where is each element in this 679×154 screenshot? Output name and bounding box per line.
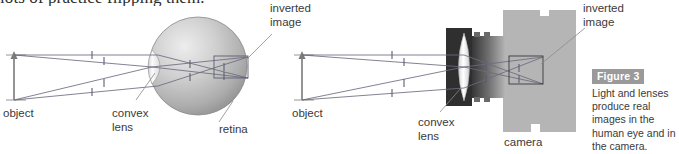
eye-object-label: object xyxy=(3,107,34,119)
camera-convex-lens-label-line2: lens xyxy=(418,130,439,142)
figure-3-illustration: lots of practice flipping them. xyxy=(0,0,679,154)
eye-inverted-image-leader xyxy=(246,34,272,60)
camera-object-label: object xyxy=(292,107,323,119)
eye-diagram-group: object convex lens retina inverted image xyxy=(3,2,311,135)
eye-inverted-image-label-line2: image xyxy=(270,16,301,28)
camera-convex-lens-label-line1: convex xyxy=(418,116,455,128)
eye-retina-label: retina xyxy=(219,123,248,135)
camera-inverted-image-label-line2: image xyxy=(583,16,614,28)
eye-convex-lens-label-line1: convex xyxy=(112,107,149,119)
figure-caption-block: Figure 3 Light and lenses produce real i… xyxy=(592,66,679,153)
camera-barrel-ring-top-2 xyxy=(484,32,490,37)
camera-barrel-ring-top xyxy=(474,32,480,37)
eye-convex-lens-label-line2: lens xyxy=(112,121,133,133)
optics-diagram-canvas: object convex lens retina inverted image xyxy=(0,0,679,154)
camera-mid-barrel xyxy=(470,36,506,98)
figure-caption-text: Light and lenses produce real images in … xyxy=(592,87,679,153)
figure-number-badge: Figure 3 xyxy=(592,69,644,84)
eye-inverted-image-label-line1: inverted xyxy=(270,2,311,14)
camera-barrel-ring-bottom-2 xyxy=(484,97,490,102)
camera-diagram-group: object convex lens camera inverted image xyxy=(292,2,624,148)
camera-body-silhouette xyxy=(503,10,576,132)
camera-object-arrow xyxy=(294,51,314,100)
eye-object-arrow xyxy=(6,51,26,100)
camera-inverted-image-label-line1: inverted xyxy=(583,2,624,14)
camera-label: camera xyxy=(504,136,543,148)
camera-barrel-ring-bottom xyxy=(474,97,480,102)
